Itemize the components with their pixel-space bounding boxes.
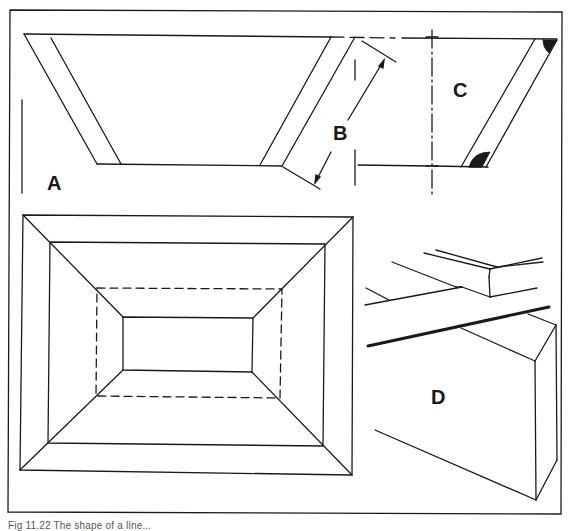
panel-d-perspective xyxy=(365,250,557,500)
technical-figure: A B C D xyxy=(0,0,573,531)
figure-caption: Fig 11.22 The shape of a line... xyxy=(8,520,151,531)
label-c: C xyxy=(453,79,467,101)
panel-a-section xyxy=(22,34,355,193)
label-b: B xyxy=(333,122,347,144)
corner-fillet-top xyxy=(543,40,557,53)
panel-c-section xyxy=(402,38,557,167)
label-a: A xyxy=(47,172,61,194)
label-d: D xyxy=(431,386,445,408)
plan-view xyxy=(20,215,353,475)
panel-b-dimension xyxy=(283,37,430,189)
